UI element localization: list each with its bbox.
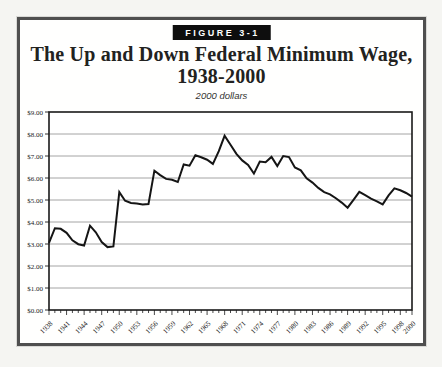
y-axis-label: $5.00 [27,197,43,205]
y-axis-label: $6.00 [27,175,43,183]
plot-area [49,112,412,310]
y-axis-label: $7.00 [27,153,43,161]
x-axis-label: 1959 [162,319,178,335]
x-axis-label: 1986 [320,319,336,335]
y-axis-label: $3.00 [27,241,43,249]
x-axis-label: 1944 [74,319,90,335]
x-axis-label: 1971 [232,319,248,335]
x-axis-label: 1992 [355,319,371,335]
y-axis-label: $0.00 [27,307,43,315]
x-axis-label: 2000 [402,319,418,335]
figure-subtitle: 2000 dollars [20,90,423,101]
x-axis-label: 1938 [39,319,55,335]
x-axis-label: 1962 [179,319,195,335]
x-axis-label: 1989 [337,319,353,335]
figure-title: The Up and Down Federal Minimum Wage, 19… [20,43,423,87]
x-axis-label: 1977 [267,319,283,335]
x-axis-label: 1941 [56,319,72,335]
figure-badge: FIGURE 3-1 [172,25,271,40]
figure-title-line2: 1938-2000 [20,65,423,87]
x-axis-label: 1980 [284,319,300,335]
x-axis-label: 1995 [372,319,388,335]
x-axis-label: 1947 [91,319,107,335]
x-axis-label: 1953 [126,319,142,335]
x-axis-label: 1950 [109,319,125,335]
minimum-wage-line-chart: $0.00$1.00$2.00$3.00$4.00$5.00$6.00$7.00… [20,105,423,343]
y-axis-label: $2.00 [27,263,43,271]
figure-label: FIGURE 3-1 [185,28,260,38]
x-axis-label: 1965 [197,319,213,335]
y-axis-label: $4.00 [27,219,43,227]
figure-title-line1: The Up and Down Federal Minimum Wage, [20,43,423,65]
x-axis-label: 1956 [144,319,160,335]
x-axis-label: 1974 [249,319,265,335]
x-axis-label: 1968 [214,319,230,335]
y-axis-label: $1.00 [27,285,43,293]
y-axis-label: $9.00 [27,109,43,117]
y-axis-label: $8.00 [27,131,43,139]
figure-frame: FIGURE 3-1 The Up and Down Federal Minim… [17,17,426,346]
x-axis-label: 1983 [302,319,318,335]
